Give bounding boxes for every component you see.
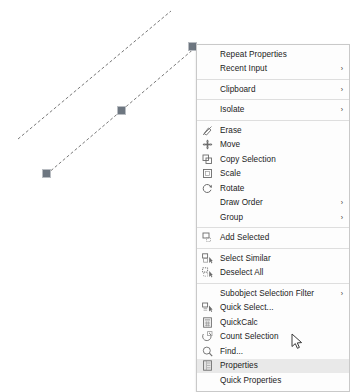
menu-item-label: Rotate bbox=[218, 184, 335, 193]
menu-item-label: Move bbox=[218, 140, 335, 149]
menu-item-recent-input[interactable]: Recent Input› bbox=[197, 62, 349, 77]
menu-separator bbox=[197, 120, 349, 121]
menu-separator bbox=[197, 283, 349, 284]
menu-item-group[interactable]: Group› bbox=[197, 210, 349, 225]
menu-item-label: Repeat Properties bbox=[218, 50, 335, 59]
menu-item-count-selection[interactable]: Count Selection bbox=[197, 330, 349, 345]
menu-item-icon-none bbox=[197, 82, 218, 97]
menu-item-quick-select[interactable]: Quick Select... bbox=[197, 301, 349, 316]
menu-item-label: QuickCalc bbox=[218, 318, 335, 327]
menu-separator bbox=[197, 227, 349, 228]
chevron-right-icon: › bbox=[335, 106, 349, 113]
calculator-icon bbox=[197, 315, 218, 330]
menu-item-scale[interactable]: Scale bbox=[197, 167, 349, 182]
menu-item-select-similar[interactable]: Select Similar bbox=[197, 251, 349, 266]
menu-item-deselect-all[interactable]: Deselect All bbox=[197, 266, 349, 281]
rotate-arrow-icon bbox=[197, 181, 218, 196]
menu-separator bbox=[197, 248, 349, 249]
menu-item-label: Erase bbox=[218, 126, 335, 135]
menu-item-icon-none bbox=[197, 210, 218, 225]
chevron-right-icon: › bbox=[335, 65, 349, 72]
menu-item-icon-none bbox=[197, 373, 218, 388]
menu-item-label: Scale bbox=[218, 169, 335, 178]
line-upper bbox=[18, 11, 171, 139]
menu-item-icon-none bbox=[197, 103, 218, 118]
menu-item-label: Isolate bbox=[218, 105, 335, 114]
menu-item-label: Subobject Selection Filter bbox=[218, 289, 335, 298]
menu-item-label: Draw Order bbox=[218, 198, 335, 207]
chevron-right-icon: › bbox=[335, 199, 349, 206]
menu-item-properties[interactable]: Properties bbox=[197, 359, 349, 374]
menu-item-label: Clipboard bbox=[218, 85, 335, 94]
menu-item-icon-none bbox=[197, 286, 218, 301]
menu-item-copy-selection[interactable]: Copy Selection bbox=[197, 152, 349, 167]
menu-item-icon-none bbox=[197, 196, 218, 211]
menu-item-icon-none bbox=[197, 47, 218, 62]
menu-item-label: Count Selection bbox=[218, 332, 335, 341]
menu-item-find[interactable]: Find... bbox=[197, 344, 349, 359]
menu-item-label: Recent Input bbox=[218, 64, 335, 73]
magnifier-icon bbox=[197, 344, 218, 359]
menu-separator bbox=[197, 99, 349, 100]
menu-item-quickcalc[interactable]: QuickCalc bbox=[197, 315, 349, 330]
grip-start[interactable] bbox=[42, 169, 51, 178]
properties-icon bbox=[197, 359, 218, 374]
menu-item-draw-order[interactable]: Draw Order› bbox=[197, 196, 349, 211]
menu-item-label: Deselect All bbox=[218, 268, 335, 277]
chevron-right-icon: › bbox=[335, 86, 349, 93]
menu-item-rotate[interactable]: Rotate bbox=[197, 181, 349, 196]
copy-selection-icon bbox=[197, 152, 218, 167]
menu-item-add-selected[interactable]: Add Selected bbox=[197, 231, 349, 246]
menu-separator bbox=[197, 79, 349, 80]
add-selected-icon bbox=[197, 231, 218, 246]
deselect-all-icon bbox=[197, 266, 218, 281]
menu-item-label: Add Selected bbox=[218, 233, 335, 242]
menu-item-isolate[interactable]: Isolate› bbox=[197, 103, 349, 118]
menu-item-label: Copy Selection bbox=[218, 155, 335, 164]
grip-midpoint[interactable] bbox=[117, 106, 126, 115]
scale-square-icon bbox=[197, 167, 218, 182]
move-cross-icon bbox=[197, 138, 218, 153]
count-selection-icon bbox=[197, 330, 218, 345]
menu-item-subobject-selection-filter[interactable]: Subobject Selection Filter› bbox=[197, 286, 349, 301]
quick-select-icon bbox=[197, 301, 218, 316]
menu-item-clipboard[interactable]: Clipboard› bbox=[197, 82, 349, 97]
menu-item-label: Find... bbox=[218, 347, 335, 356]
menu-item-move[interactable]: Move bbox=[197, 138, 349, 153]
select-similar-icon bbox=[197, 251, 218, 266]
menu-item-label: Properties bbox=[218, 361, 335, 370]
chevron-right-icon: › bbox=[335, 290, 349, 297]
menu-item-quick-properties[interactable]: Quick Properties bbox=[197, 373, 349, 388]
eraser-icon bbox=[197, 123, 218, 138]
menu-item-label: Group bbox=[218, 213, 335, 222]
object-context-menu[interactable]: Repeat PropertiesRecent Input›Clipboard›… bbox=[196, 44, 350, 392]
menu-item-label: Select Similar bbox=[218, 254, 335, 263]
menu-item-erase[interactable]: Erase bbox=[197, 123, 349, 138]
chevron-right-icon: › bbox=[335, 214, 349, 221]
menu-item-repeat-properties[interactable]: Repeat Properties bbox=[197, 47, 349, 62]
menu-item-label: Quick Properties bbox=[218, 376, 335, 385]
menu-item-label: Quick Select... bbox=[218, 303, 335, 312]
menu-item-icon-none bbox=[197, 62, 218, 77]
